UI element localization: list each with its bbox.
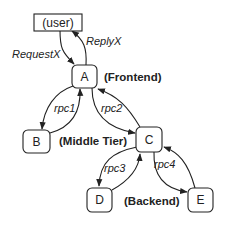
node-b-label: B [32, 135, 40, 149]
node-a-label: A [80, 70, 88, 84]
rpc-call-tree-diagram: (user) A B C D E (Frontend) (Middle Tier… [0, 0, 228, 225]
node-c: C [136, 127, 162, 152]
edge-label-rpc2: rpc2 [101, 102, 122, 114]
edge-label-request: RequestX [12, 48, 61, 60]
node-e-label: E [196, 193, 204, 207]
edge-label-rpc4: rpc4 [154, 158, 175, 170]
node-user-label: (user) [42, 16, 73, 30]
node-c-label: C [145, 133, 154, 147]
node-d: D [87, 188, 112, 212]
node-a: A [72, 65, 97, 88]
edge-label-rpc1: rpc1 [54, 102, 75, 114]
node-d-label: D [95, 193, 104, 207]
tier-label-backend: (Backend) [124, 195, 180, 207]
edge-label-rpc3: rpc3 [104, 162, 126, 174]
edge-request-user-to-a [60, 30, 74, 64]
tier-label-middle: (Middle Tier) [59, 135, 127, 147]
tier-label-frontend: (Frontend) [104, 71, 162, 83]
edge-label-reply: ReplyX [86, 35, 122, 47]
node-user: (user) [34, 14, 82, 31]
node-b: B [23, 130, 50, 153]
edge-reply-a-to-user [72, 31, 86, 65]
node-e: E [188, 188, 213, 212]
